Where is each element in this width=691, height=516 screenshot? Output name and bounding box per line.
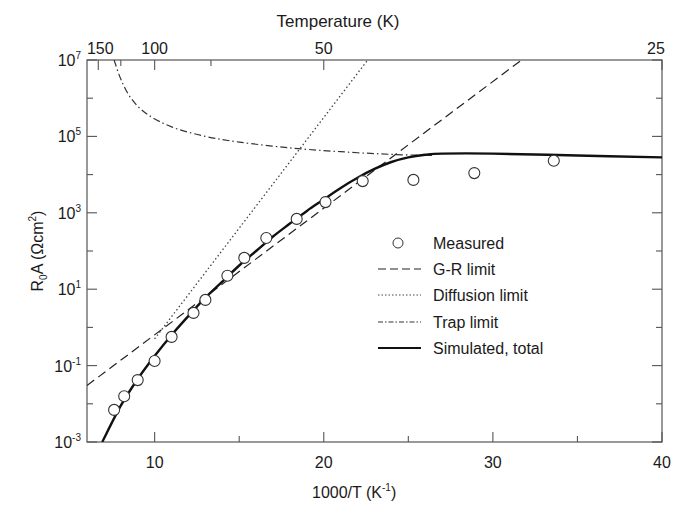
y-tick-label: 101 <box>58 279 82 298</box>
legend-label-simulated: Simulated, total <box>433 340 543 357</box>
left-axis-ticks: 10710510310110-110-3 <box>54 50 97 451</box>
top-axis-title: Temperature (K) <box>277 12 400 31</box>
measured-point <box>132 375 143 386</box>
chart: Temperature (K) 1501005025 10203040 1071… <box>0 0 691 516</box>
legend-label-gr: G-R limit <box>433 261 496 278</box>
top-axis-ticks: 1501005025 <box>87 40 665 70</box>
measured-point <box>119 391 130 402</box>
measured-point <box>166 331 177 342</box>
measured-point <box>149 356 160 367</box>
legend-label-measured: Measured <box>433 235 504 252</box>
top-tick-label: 25 <box>647 40 665 57</box>
plot-frame <box>87 60 662 442</box>
trap-limit-line <box>114 60 434 156</box>
gr-limit-line <box>87 60 522 386</box>
measured-point <box>188 307 199 318</box>
legend-label-diffusion: Diffusion limit <box>433 287 528 304</box>
y-tick-label: 103 <box>58 203 82 222</box>
y-tick-label: 10-3 <box>54 432 81 451</box>
y-axis-label: R0A (Ωcm2) <box>27 211 49 292</box>
y-tick-label: 105 <box>58 126 82 145</box>
measured-point <box>548 155 559 166</box>
measured-point <box>408 174 419 185</box>
legend-label-trap: Trap limit <box>433 314 499 331</box>
x-axis-title: 1000/T (K-1) <box>312 482 396 501</box>
x-tick-label: 40 <box>653 454 671 471</box>
top-tick-label: 100 <box>141 40 168 57</box>
x-tick-label: 10 <box>146 454 164 471</box>
top-tick-label: 150 <box>87 40 114 57</box>
measured-point <box>357 176 368 187</box>
x-axis-label: 1000/T (K-1) <box>312 482 396 501</box>
x-tick-label: 30 <box>484 454 502 471</box>
y-tick-label: 107 <box>58 50 82 69</box>
measured-point <box>200 294 211 305</box>
measured-points <box>109 155 560 415</box>
legend-marker-measured <box>393 238 403 248</box>
y-axis-title: R0A (Ωcm2) <box>27 211 49 292</box>
series-layer <box>87 60 662 442</box>
top-axis-label: Temperature (K) <box>277 12 400 31</box>
measured-point <box>239 252 250 263</box>
measured-point <box>109 404 120 415</box>
measured-point <box>261 233 272 244</box>
measured-point <box>222 270 233 281</box>
measured-point <box>291 213 302 224</box>
top-tick-label: 50 <box>315 40 333 57</box>
legend: Measured G-R limit Diffusion limit Trap … <box>378 235 543 357</box>
simulated-total-line <box>102 153 662 442</box>
bottom-axis-ticks: 10203040 <box>146 432 671 471</box>
y-tick-label: 10-1 <box>54 356 81 375</box>
measured-point <box>320 197 331 208</box>
x-tick-label: 20 <box>315 454 333 471</box>
measured-point <box>469 168 480 179</box>
right-axis-ticks <box>652 60 662 442</box>
